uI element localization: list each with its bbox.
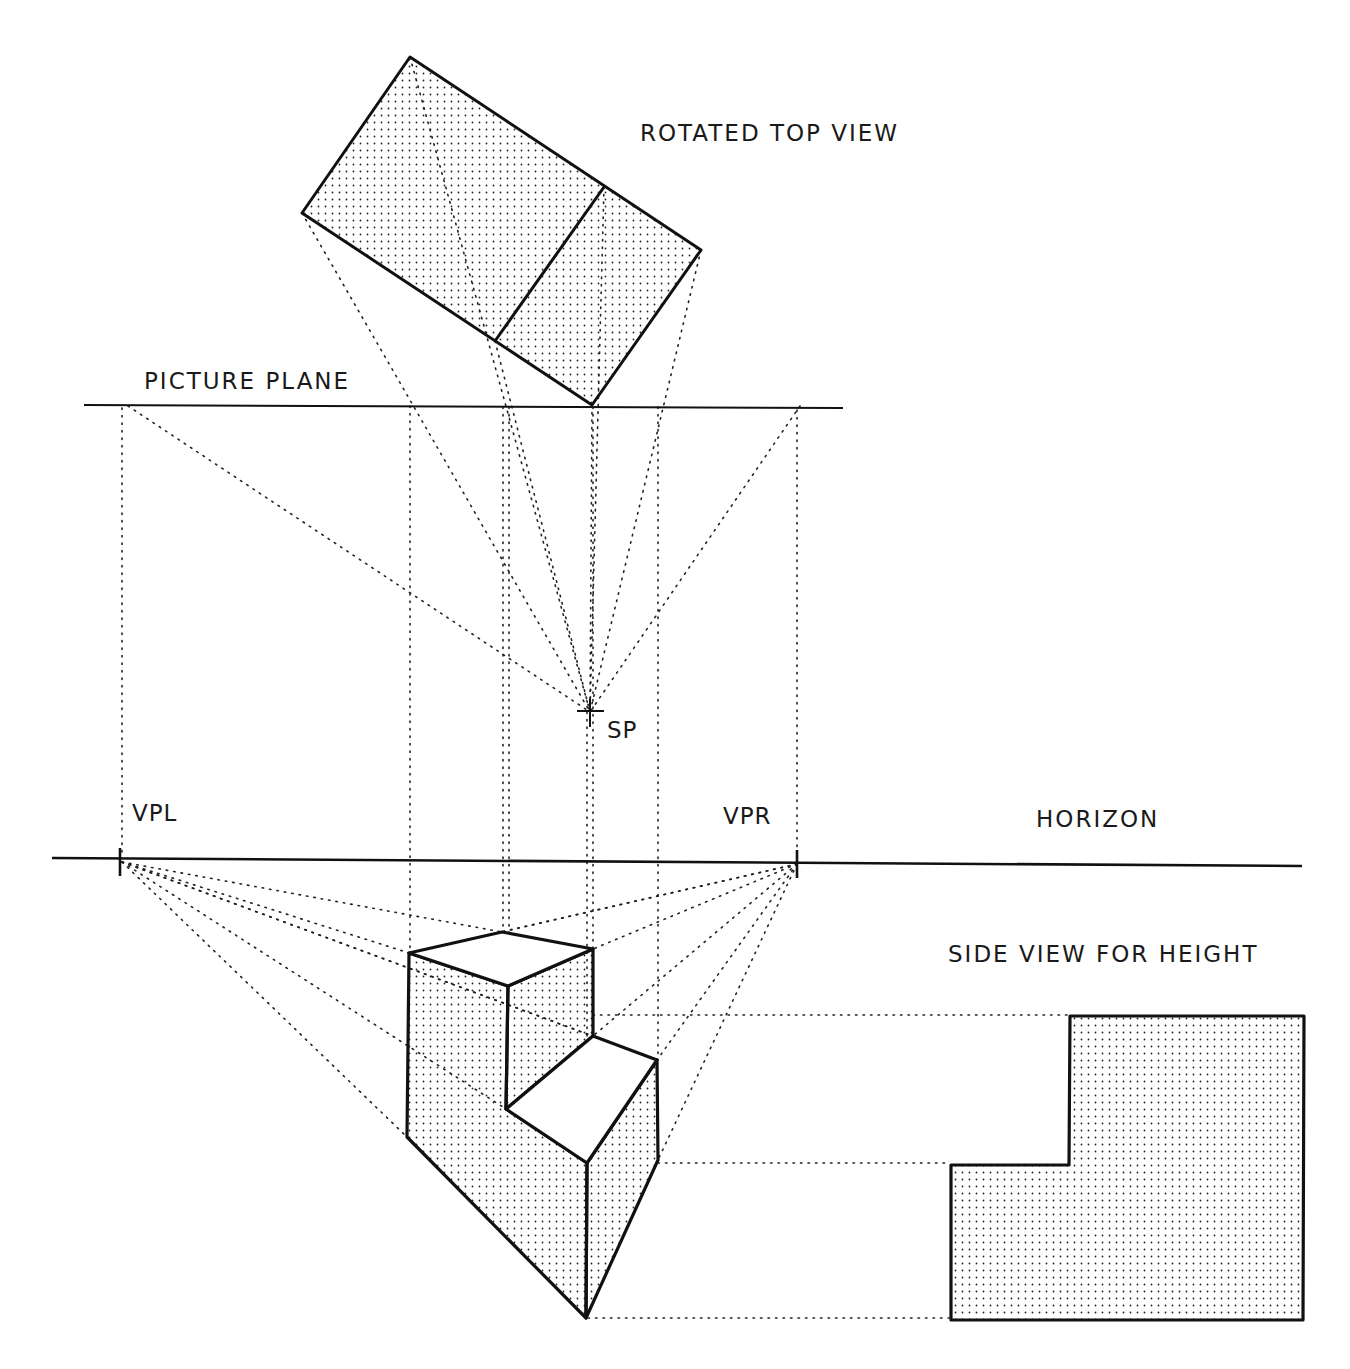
vpr-label: VPR	[723, 803, 772, 829]
two-point-perspective-diagram	[0, 0, 1350, 1369]
perspective-object	[407, 932, 658, 1318]
rotated-top-view-shape	[302, 57, 701, 405]
rotated-top-view-label: ROTATED TOP VIEW	[640, 120, 899, 146]
side-view-shape	[951, 1016, 1304, 1320]
station-point-label: SP	[607, 717, 637, 743]
vpl-label: VPL	[132, 800, 177, 826]
station-point-marker	[577, 699, 604, 727]
picture-plane-line	[84, 405, 843, 408]
picture-plane-label: PICTURE PLANE	[144, 368, 350, 394]
side-view-label: SIDE VIEW FOR HEIGHT	[948, 941, 1258, 967]
horizon-line	[52, 858, 1302, 866]
horizon-label: HORIZON	[1036, 806, 1159, 832]
